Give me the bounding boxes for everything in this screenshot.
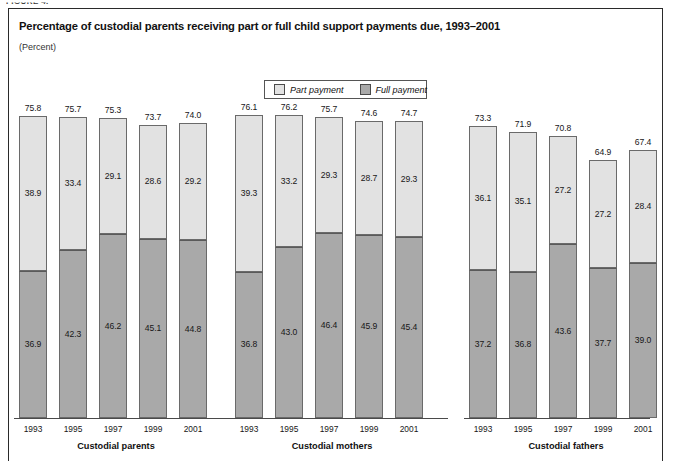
axis-unit-label: (Percent): [19, 42, 56, 52]
chart-legend: Part payment Full payment: [264, 80, 427, 99]
legend-swatch-part-payment: [274, 84, 285, 95]
legend-label-full-payment: Full payment: [376, 85, 428, 95]
legend-item-full-payment: Full payment: [360, 84, 428, 95]
page-title: Percentage of custodial parents receivin…: [19, 20, 500, 32]
legend-swatch-full-payment: [360, 84, 371, 95]
legend-label-part-payment: Part payment: [290, 85, 344, 95]
legend-item-part-payment: Part payment: [274, 84, 344, 95]
figure-frame: [8, 8, 663, 461]
figure-number: FIGURE 4.: [6, 0, 49, 6]
